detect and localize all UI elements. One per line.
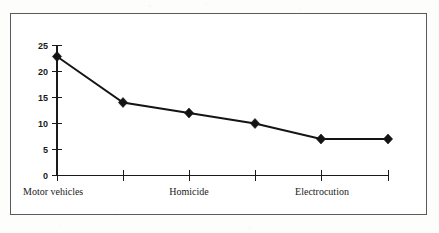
x-axis-category-labels: Motor vehicles Homicide Electrocution (23, 186, 349, 197)
data-point-2 (118, 98, 127, 108)
line-chart: 25 20 15 10 5 0 (0, 0, 439, 233)
data-point-5 (316, 134, 325, 144)
y-tick-label-5: 5 (43, 145, 48, 155)
data-point-6 (383, 134, 392, 144)
y-tick-label-25: 25 (38, 41, 48, 51)
x-axis (57, 170, 389, 181)
data-point-3 (184, 108, 193, 118)
figure-container: 25 20 15 10 5 0 (0, 0, 439, 233)
x-label-motor-vehicles: Motor vehicles (23, 186, 83, 197)
series-line-path (57, 57, 388, 140)
y-tick-label-20: 20 (38, 67, 48, 77)
y-axis: 25 20 15 10 5 0 (38, 41, 62, 181)
y-tick-label-0: 0 (43, 171, 48, 181)
data-point-1 (52, 52, 61, 62)
y-tick-label-10: 10 (38, 119, 48, 129)
data-point-4 (250, 119, 259, 129)
x-label-homicide: Homicide (169, 186, 209, 197)
data-point-markers (52, 52, 392, 145)
y-tick-label-15: 15 (38, 93, 48, 103)
x-label-electrocution: Electrocution (295, 186, 349, 197)
